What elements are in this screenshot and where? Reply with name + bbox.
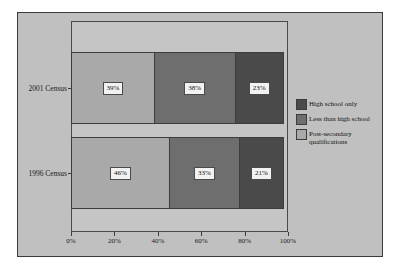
bar-value-label: 38% — [184, 82, 205, 95]
legend-swatch-icon — [296, 99, 307, 110]
x-tick-20 — [114, 232, 115, 236]
legend-label: Less than high school — [309, 114, 370, 123]
x-tick-label-40: 40% — [151, 237, 164, 245]
bar-value-label: 21% — [251, 167, 272, 180]
x-tick-80 — [245, 232, 246, 236]
x-tick-0 — [71, 232, 72, 236]
chart-legend: High school only Less than high school P… — [296, 99, 382, 150]
bar-segment-1996-post-secondary[interactable]: 46% — [71, 137, 170, 209]
legend-item-post-secondary-qualifications[interactable]: Post-secondary qualifications — [296, 129, 382, 146]
bar-value-label: 33% — [194, 167, 215, 180]
x-tick-60 — [201, 232, 202, 236]
bar-group-2001-census: 2001 Census 39% 38% 23% — [72, 52, 287, 124]
x-tick-100 — [288, 232, 289, 236]
category-label-1996: 1996 Census — [28, 169, 67, 178]
x-tick-label-0: 0% — [66, 237, 75, 245]
legend-label: Post-secondary qualifications — [309, 129, 382, 146]
x-tick-40 — [158, 232, 159, 236]
bar-group-1996-census: 1996 Census 46% 33% 21% — [72, 137, 287, 209]
bar-segment-1996-high-school-only[interactable]: 21% — [239, 137, 284, 209]
x-axis: 0% 20% 40% 60% 80% 100% — [71, 232, 288, 256]
plot-area: 2001 Census 39% 38% 23% 1996 Census 46% … — [71, 21, 288, 232]
bar-value-label: 23% — [249, 82, 270, 95]
legend-item-less-than-high-school[interactable]: Less than high school — [296, 114, 382, 125]
x-tick-label-20: 20% — [108, 237, 121, 245]
category-label-2001: 2001 Census — [28, 84, 67, 93]
legend-swatch-icon — [296, 129, 307, 140]
x-tick-label-100: 100% — [280, 237, 296, 245]
legend-item-high-school-only[interactable]: High school only — [296, 99, 382, 110]
bar-segment-2001-high-school-only[interactable]: 23% — [235, 52, 284, 124]
legend-label: High school only — [309, 99, 357, 108]
bar-value-label: 46% — [110, 167, 131, 180]
legend-swatch-icon — [296, 114, 307, 125]
bar-segment-1996-less-than-high-school[interactable]: 33% — [169, 137, 240, 209]
chart-figure: 2001 Census 39% 38% 23% 1996 Census 46% … — [17, 12, 383, 257]
bar-value-label: 39% — [103, 82, 124, 95]
x-tick-label-60: 60% — [195, 237, 208, 245]
bar-segment-2001-post-secondary[interactable]: 39% — [71, 52, 155, 124]
bar-segment-2001-less-than-high-school[interactable]: 38% — [154, 52, 236, 124]
x-tick-label-80: 80% — [238, 237, 251, 245]
